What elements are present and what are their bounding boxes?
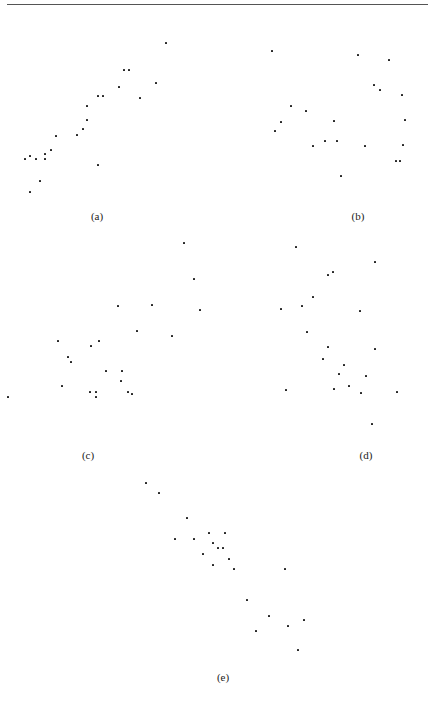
- data-point: [158, 492, 160, 494]
- data-point: [268, 615, 270, 617]
- data-point: [193, 538, 195, 540]
- data-point: [145, 482, 147, 484]
- data-point: [222, 547, 224, 549]
- data-point: [202, 553, 204, 555]
- data-point: [287, 625, 289, 627]
- data-point: [297, 649, 299, 651]
- data-point: [284, 568, 286, 570]
- data-point: [217, 547, 219, 549]
- data-point: [246, 599, 248, 601]
- scatter-panel-e: (e): [0, 0, 428, 701]
- data-point: [303, 619, 305, 621]
- data-point: [233, 568, 235, 570]
- data-point: [228, 558, 230, 560]
- data-point: [208, 532, 210, 534]
- data-point: [212, 564, 214, 566]
- panel-label: (e): [217, 671, 229, 683]
- data-point: [186, 517, 188, 519]
- data-point: [224, 532, 226, 534]
- data-point: [255, 630, 257, 632]
- data-point: [212, 542, 214, 544]
- data-point: [174, 538, 176, 540]
